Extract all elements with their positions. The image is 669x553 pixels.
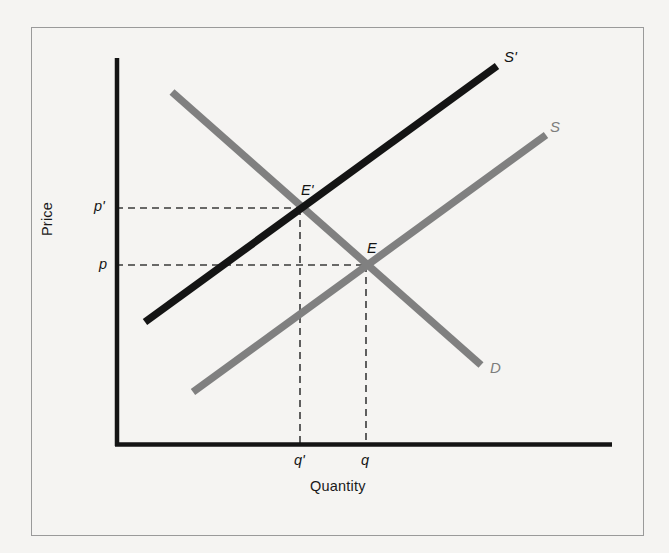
demand-curve [172, 92, 481, 365]
equilibrium-label: E [367, 240, 377, 256]
y-tick-label-price: p [99, 256, 107, 272]
equilibrium-label-shifted: E' [301, 182, 313, 198]
curve-label-demand: D [490, 359, 501, 376]
supply-curve [193, 135, 546, 392]
x-axis-title: Quantity [310, 478, 366, 494]
x-tick-label-quantity-shifted: q' [294, 452, 305, 468]
plot-canvas [0, 0, 669, 553]
x-tick-label-quantity: q [361, 452, 369, 468]
y-tick-label-price-shifted: p' [94, 198, 105, 214]
curve-label-supply: S [550, 118, 560, 135]
curve-label-supply-shifted: S' [504, 48, 517, 65]
supply-demand-figure: Price Quantity S' S D E' E p' p q' q [0, 0, 669, 553]
supply-shifted-curve [145, 66, 497, 322]
y-axis-title: Price [39, 202, 55, 236]
